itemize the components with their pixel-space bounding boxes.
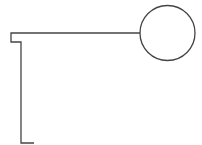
line-diagram: [0, 0, 202, 145]
bracket-connector-line: [11, 33, 140, 143]
circle-node: [140, 6, 195, 61]
